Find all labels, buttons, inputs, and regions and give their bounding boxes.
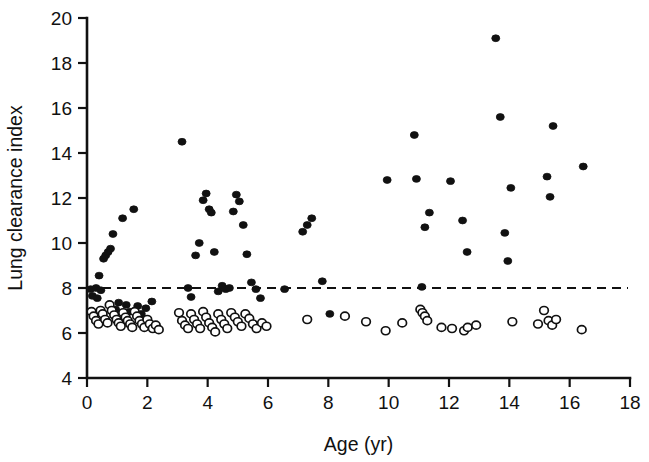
data-point-open (381, 327, 390, 335)
x-axis-tick-label: 6 (263, 392, 274, 413)
data-point-filled (425, 209, 433, 216)
x-axis-tick-label: 16 (559, 392, 580, 413)
data-point-filled (303, 222, 311, 229)
data-point-filled (243, 251, 251, 258)
data-point-filled (459, 217, 467, 224)
data-point-filled (229, 208, 237, 215)
data-point-open (463, 323, 472, 331)
data-point-open (341, 312, 350, 320)
data-point-open (534, 320, 543, 328)
y-axis-tick-label: 4 (61, 368, 72, 389)
data-point-open (128, 323, 137, 331)
y-axis-tick-label: 12 (51, 188, 72, 209)
data-point-filled (239, 222, 247, 229)
data-point-open (237, 322, 246, 330)
data-point-open (472, 321, 481, 329)
y-axis-tick-label: 18 (51, 53, 72, 74)
data-point-filled (549, 123, 557, 130)
data-point-open (398, 319, 407, 327)
data-point-filled (418, 283, 426, 290)
data-point-filled (412, 175, 420, 182)
data-point-filled (501, 229, 509, 236)
data-point-open (448, 325, 457, 333)
y-axis-tick-label: 6 (61, 323, 72, 344)
data-point-filled (281, 286, 289, 293)
data-point-open (184, 325, 193, 333)
data-point-open (211, 328, 220, 336)
data-point-filled (93, 295, 101, 302)
x-axis-tick-label: 0 (82, 392, 93, 413)
y-axis-tick-label: 8 (61, 278, 72, 299)
x-axis-tick-label: 8 (323, 392, 334, 413)
scatter-plot-figure: 468101214161820024681012141618Age (yr)Lu… (0, 0, 649, 462)
y-axis-title: Lung clearance index (4, 105, 26, 291)
x-axis-tick-label: 18 (619, 392, 640, 413)
data-point-filled (504, 258, 512, 265)
data-point-filled (447, 178, 455, 185)
data-point-filled (97, 287, 105, 294)
data-point-filled (115, 299, 123, 306)
data-point-filled (178, 138, 186, 145)
data-point-filled (507, 184, 515, 191)
data-point-open (103, 319, 112, 327)
data-point-filled (235, 198, 243, 205)
data-point-open (155, 326, 164, 334)
data-point-filled (232, 191, 240, 198)
x-axis-tick-label: 12 (438, 392, 459, 413)
data-point-filled (95, 272, 103, 279)
data-point-filled (130, 206, 138, 213)
data-point-filled (252, 286, 260, 293)
data-point-filled (119, 215, 127, 222)
x-axis-tick-label: 14 (499, 392, 521, 413)
data-point-open (175, 309, 184, 317)
data-point-open (508, 318, 517, 326)
data-point-filled (210, 249, 218, 256)
axis-labels-group: 468101214161820024681012141618Age (yr)Lu… (4, 8, 641, 455)
data-point-filled (202, 190, 210, 197)
data-point-filled (421, 224, 429, 231)
data-point-filled (195, 240, 203, 247)
data-point-filled (225, 285, 233, 292)
x-axis-title: Age (yr) (324, 433, 393, 455)
data-point-filled (308, 215, 316, 222)
data-point-filled (383, 177, 391, 184)
x-axis-tick-label: 10 (378, 392, 399, 413)
data-point-filled (199, 197, 207, 204)
data-point-open (423, 317, 432, 325)
y-axis-tick-label: 16 (51, 98, 72, 119)
data-point-open (437, 323, 446, 331)
data-point-filled (109, 231, 117, 238)
data-point-filled (184, 285, 192, 292)
data-point-filled (463, 249, 471, 256)
x-axis-tick-label: 2 (142, 392, 153, 413)
data-point-open (552, 316, 561, 324)
data-point-filled (187, 294, 195, 301)
data-point-open (540, 307, 549, 315)
data-point-open (577, 326, 586, 334)
data-point-filled (207, 209, 215, 216)
data-point-filled (496, 114, 504, 121)
data-point-filled (148, 298, 156, 305)
y-axis-tick-label: 10 (51, 233, 72, 254)
data-point-filled (579, 163, 587, 170)
data-point-filled (543, 173, 551, 180)
data-point-open (196, 325, 205, 333)
data-point-filled (256, 295, 264, 302)
x-axis-tick-label: 4 (202, 392, 213, 413)
y-axis-tick-label: 20 (51, 8, 72, 29)
data-point-open (303, 316, 312, 324)
data-point-open (262, 322, 271, 330)
data-point-filled (318, 278, 326, 285)
data-point-open (362, 318, 371, 326)
data-point-filled (247, 279, 255, 286)
data-points-group (87, 35, 588, 336)
data-point-filled (192, 252, 200, 259)
data-point-filled (299, 228, 307, 235)
data-point-filled (410, 132, 418, 139)
data-point-open (223, 325, 232, 333)
data-point-filled (122, 301, 130, 308)
data-point-filled (326, 310, 334, 317)
data-point-filled (492, 35, 500, 42)
data-point-filled (142, 305, 150, 312)
data-point-filled (107, 245, 115, 252)
